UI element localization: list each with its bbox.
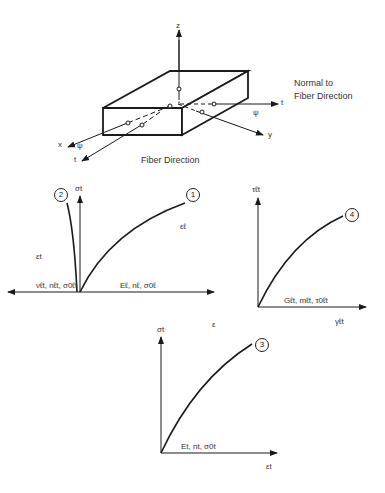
curve-4	[258, 216, 343, 307]
x-axis-label: x	[58, 141, 62, 149]
composite-block	[68, 30, 278, 161]
y-axis-label: y	[268, 131, 272, 139]
sigma-axis-label: σt	[75, 185, 82, 193]
diagram-canvas	[0, 0, 385, 493]
curve-1-params: Eℓ, nℓ, σ0ℓ	[120, 282, 156, 290]
z-axis-label: z	[176, 22, 180, 30]
plot-longitudinal-transverse	[8, 196, 214, 292]
curve-2-label: εt	[36, 253, 42, 261]
block-front-face	[103, 108, 182, 135]
curve-3-marker: 3	[255, 338, 269, 352]
plot-transverse	[161, 337, 277, 453]
epsilon-axis-label: ε	[212, 321, 216, 329]
curve-1-marker: 1	[186, 188, 200, 202]
curve-2-marker: 2	[54, 188, 68, 202]
curve-4-params: Gℓt, mℓt, τ0ℓt	[284, 297, 328, 305]
psi-right-label: ψ	[253, 109, 259, 117]
normal-direction-label-2: Fiber Direction	[294, 92, 353, 101]
curve-1	[80, 203, 185, 292]
epsilon-t-axis-label: εt	[266, 463, 272, 471]
curve-3-params: Et, nt, σ0t	[181, 443, 216, 451]
t-axis-left-label: t	[74, 156, 76, 164]
psi-left-label: ψ	[77, 142, 83, 150]
sigma-t-axis-label: σt	[157, 326, 164, 334]
curve-2	[67, 203, 77, 292]
curve-3	[161, 344, 252, 453]
t-axis-right-label: t	[281, 99, 283, 107]
fiber-direction-label: Fiber Direction	[141, 156, 200, 165]
tau-axis-label: τℓt	[252, 186, 260, 194]
normal-direction-label-1: Normal to	[294, 79, 333, 88]
gamma-axis-label: γℓt	[335, 318, 344, 326]
curve-2-params: νℓt, nℓt, σ0ℓt	[36, 282, 77, 290]
curve-1-label: εℓ	[180, 223, 186, 231]
curve-4-marker: 4	[345, 208, 359, 222]
